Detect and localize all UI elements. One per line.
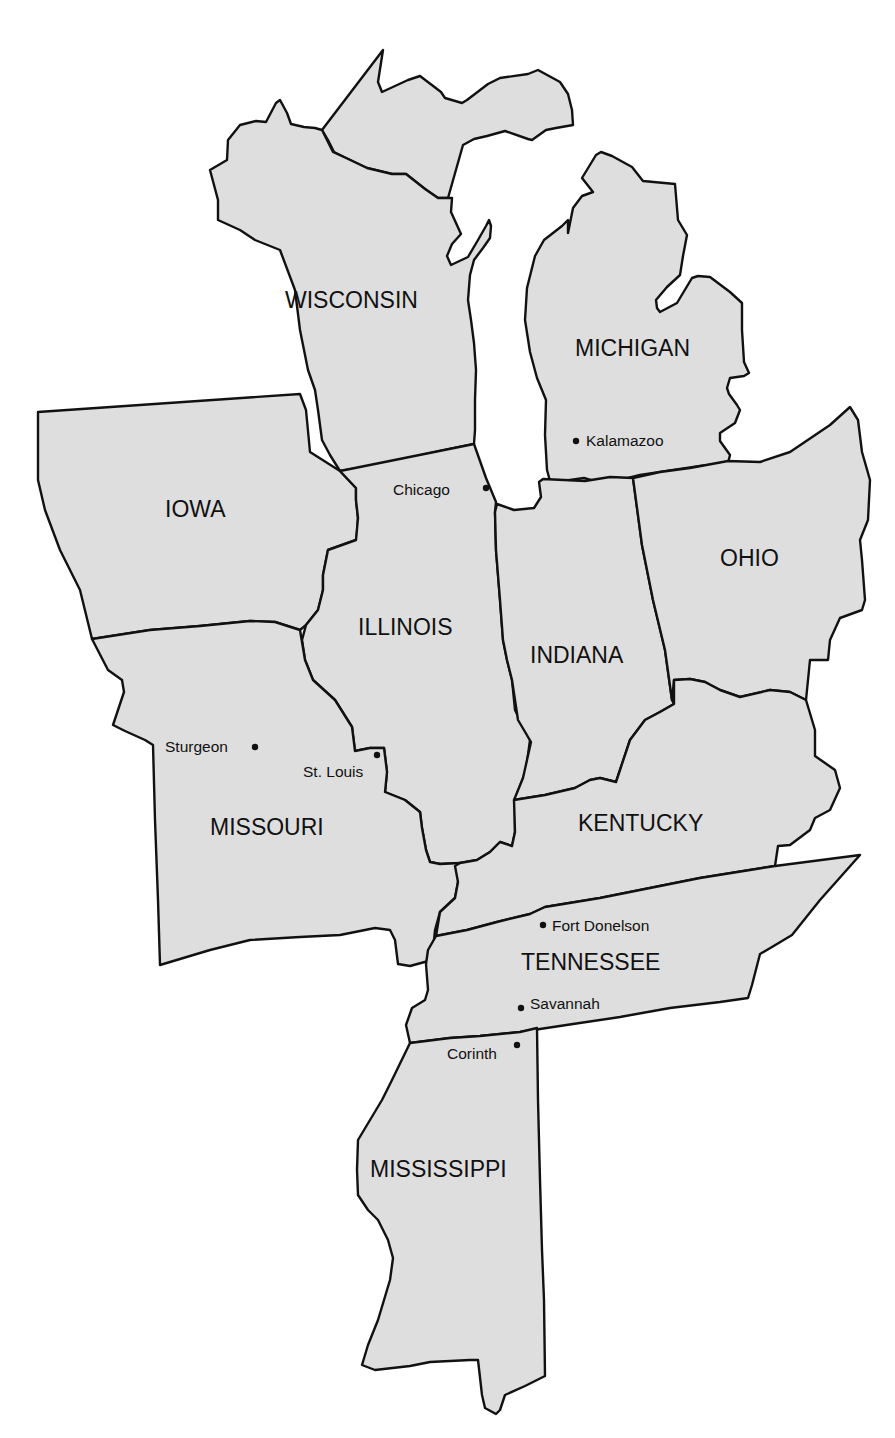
city-dot-icon xyxy=(374,752,380,758)
city-label-corinth: Corinth xyxy=(447,1045,497,1062)
city-dot-icon xyxy=(540,922,546,928)
city-dot-icon xyxy=(252,744,258,750)
city-savannah[interactable]: Savannah xyxy=(518,995,600,1012)
city-dot-icon xyxy=(514,1042,520,1048)
state-label-mississippi: MISSISSIPPI xyxy=(370,1156,507,1182)
city-label-st-louis: St. Louis xyxy=(303,763,364,780)
state-label-michigan: MICHIGAN xyxy=(575,335,690,361)
city-kalamazoo[interactable]: Kalamazoo xyxy=(573,432,664,449)
city-label-kalamazoo: Kalamazoo xyxy=(586,432,664,449)
state-label-indiana: INDIANA xyxy=(530,642,624,668)
state-label-tennessee: TENNESSEE xyxy=(521,949,660,975)
state-label-wisconsin: WISCONSIN xyxy=(285,287,418,313)
state-label-illinois: ILLINOIS xyxy=(358,614,453,640)
state-mississippi[interactable] xyxy=(357,1028,545,1414)
city-dot-icon xyxy=(573,438,579,444)
city-label-savannah: Savannah xyxy=(530,995,600,1012)
city-dot-icon xyxy=(518,1005,524,1011)
city-label-sturgeon: Sturgeon xyxy=(165,738,228,755)
midwest-map: WISCONSIN MICHIGAN IOWA ILLINOIS INDIANA… xyxy=(0,0,895,1438)
city-label-fort-donelson: Fort Donelson xyxy=(552,917,649,934)
state-label-kentucky: KENTUCKY xyxy=(578,810,703,836)
state-label-missouri: MISSOURI xyxy=(210,814,324,840)
state-label-iowa: IOWA xyxy=(165,496,226,522)
city-fort-donelson[interactable]: Fort Donelson xyxy=(540,917,650,934)
city-label-chicago: Chicago xyxy=(393,481,450,498)
city-dot-icon xyxy=(483,485,489,491)
state-label-ohio: OHIO xyxy=(720,545,779,571)
